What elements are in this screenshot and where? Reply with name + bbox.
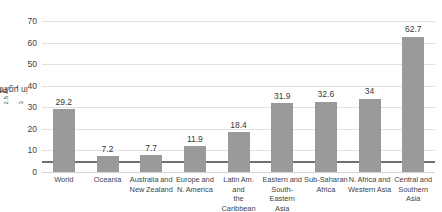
bar[interactable]: [53, 109, 75, 172]
bar-slot: 7.2: [86, 21, 130, 172]
x-axis-category-label: N. Africa andWestern Asia: [348, 175, 392, 212]
x-axis-category-label-line: Sub-Saharan: [304, 175, 348, 185]
bar-value-label: 32.6: [318, 90, 335, 99]
x-axis-category-label-line: Western Asia: [348, 185, 392, 195]
x-axis-category-label-line: Oceania: [86, 175, 130, 185]
x-axis-category-label-line: New Zealand: [129, 185, 173, 195]
bar-slot: 34: [348, 21, 392, 172]
x-axis-category-label-line: World: [42, 175, 86, 185]
bar[interactable]: [315, 102, 337, 172]
bar-value-label: 29.2: [56, 98, 73, 107]
x-axis-category-label-line: Central and: [391, 175, 435, 185]
x-axis-category-label: Sub-SaharanAfrica: [304, 175, 348, 212]
x-axis-category-label-line: Latin Am. and: [217, 175, 261, 194]
gridline: [42, 172, 435, 173]
bar-slot: 32.6: [304, 21, 348, 172]
bar[interactable]: [97, 156, 119, 172]
x-axis-category-label-line: South-Eastern: [260, 185, 304, 204]
x-axis-category-label-line: the Caribbean: [217, 194, 261, 212]
bar-value-label: 62.7: [405, 25, 422, 34]
bar[interactable]: [359, 99, 381, 172]
y-axis-tick-labels: 010203040506070: [16, 0, 40, 212]
x-axis-category-label: Latin Am. andthe Caribbean: [217, 175, 261, 212]
y-axis-title-subscript: 2.5: [3, 96, 9, 105]
y-axis-tick-label: 10: [28, 146, 37, 155]
y-axis-tick-label: 20: [28, 125, 37, 134]
x-axis-category-label: Eastern andSouth-EasternAsia: [260, 175, 304, 212]
x-axis-category-label-line: Eastern and: [260, 175, 304, 185]
x-axis-category-label-line: Australia and: [129, 175, 173, 185]
y-axis-title: PM2.5 in µg/m3: [0, 0, 16, 180]
bar[interactable]: [228, 132, 250, 172]
plot-area: 29.27.27.711.918.431.932.63462.7: [42, 21, 435, 172]
x-axis-category-label: World: [42, 175, 86, 212]
bar-slot: 18.4: [217, 21, 261, 172]
x-axis-category-label: Central andSouthern Asia: [391, 175, 435, 212]
bar-slot: 62.7: [391, 21, 435, 172]
x-axis-category-label-line: Africa: [304, 185, 348, 195]
y-axis-tick-label: 0: [32, 168, 37, 177]
y-axis-tick-label: 40: [28, 81, 37, 90]
bar-value-label: 34: [365, 87, 374, 96]
bar-value-label: 31.9: [274, 92, 291, 101]
x-axis-category-label: Oceania: [86, 175, 130, 212]
x-axis-category-label-line: Southern Asia: [391, 185, 435, 204]
y-axis-tick-label: 30: [28, 103, 37, 112]
bar-value-label: 7.7: [145, 144, 157, 153]
x-axis-category-label: Europe andN. America: [173, 175, 217, 212]
x-axis-category-label-line: N. America: [173, 185, 217, 195]
x-axis-category-label-line: N. Africa and: [348, 175, 392, 185]
bar-slot: 7.7: [129, 21, 173, 172]
y-axis-tick-label: 70: [28, 17, 37, 26]
bar[interactable]: [184, 146, 206, 172]
y-axis-tick-label: 50: [28, 60, 37, 69]
bar[interactable]: [402, 37, 424, 172]
bar-slot: 29.2: [42, 21, 86, 172]
y-axis-tick-label: 60: [28, 38, 37, 47]
x-axis-category-labels: WorldOceaniaAustralia andNew ZealandEuro…: [42, 175, 435, 212]
bar-value-label: 7.2: [102, 145, 114, 154]
bar[interactable]: [271, 103, 293, 172]
x-axis-category-label: Australia andNew Zealand: [129, 175, 173, 212]
x-axis-category-label-line: Europe and: [173, 175, 217, 185]
bar-value-label: 11.9: [187, 135, 203, 144]
bar-slot: 11.9: [173, 21, 217, 172]
pm25-bar-chart: PM2.5 in µg/m3 010203040506070 29.27.27.…: [0, 0, 442, 212]
bar-slot: 31.9: [260, 21, 304, 172]
x-axis-category-label-line: Asia: [260, 204, 304, 212]
bar-value-label: 18.4: [230, 121, 247, 130]
bar-series: 29.27.27.711.918.431.932.63462.7: [42, 21, 435, 172]
bar[interactable]: [140, 155, 162, 172]
